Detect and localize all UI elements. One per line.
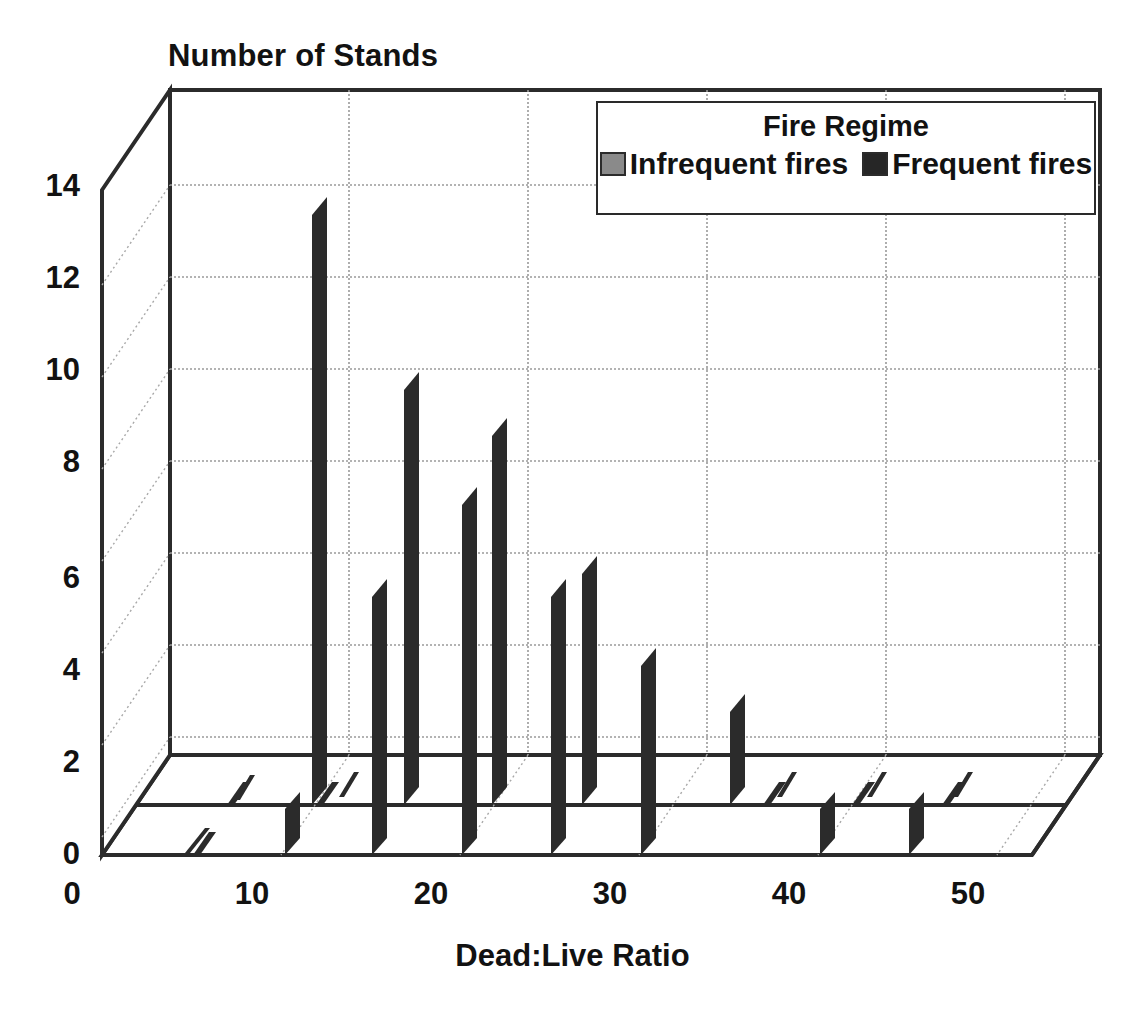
bar xyxy=(462,487,477,855)
y-tick-0: 0 xyxy=(22,836,80,872)
legend-label-infrequent-fires: Infrequent fires xyxy=(630,149,848,179)
bar xyxy=(551,579,566,855)
legend-swatch-frequent-fires xyxy=(862,152,888,176)
y-tick-8: 8 xyxy=(22,444,80,480)
legend-title: Fire Regime xyxy=(598,110,1094,143)
x-tick-10: 10 xyxy=(222,876,282,912)
y-tick-4: 4 xyxy=(22,652,80,688)
bar xyxy=(582,556,597,805)
x-tick-20: 20 xyxy=(401,876,461,912)
y-tick-12: 12 xyxy=(22,260,80,296)
legend-swatch-infrequent-fires xyxy=(600,152,626,176)
legend-item-frequent-fires[interactable]: Frequent fires xyxy=(862,149,1092,179)
chart-figure: Number of Stands xyxy=(0,0,1145,1021)
y-tick-6: 6 xyxy=(22,560,80,596)
y-tick-2: 2 xyxy=(22,744,80,780)
bar xyxy=(641,648,656,855)
legend-label-frequent-fires: Frequent fires xyxy=(892,149,1092,179)
x-tick-50: 50 xyxy=(938,876,998,912)
legend-entries: Infrequent fires Frequent fires xyxy=(598,149,1094,179)
legend-item-infrequent-fires[interactable]: Infrequent fires xyxy=(600,149,848,179)
x-tick-40: 40 xyxy=(759,876,819,912)
y-tick-14: 14 xyxy=(22,168,80,204)
bar xyxy=(404,372,419,805)
y-tick-10: 10 xyxy=(22,352,80,388)
x-tick-30: 30 xyxy=(580,876,640,912)
bar xyxy=(312,197,327,805)
x-tick-0: 0 xyxy=(42,876,102,912)
bar xyxy=(372,579,387,855)
bar xyxy=(730,694,745,805)
chart-legend: Fire Regime Infrequent fires Frequent fi… xyxy=(596,101,1096,215)
x-axis-title: Dead:Live Ratio xyxy=(0,938,1145,974)
bar xyxy=(492,418,507,805)
